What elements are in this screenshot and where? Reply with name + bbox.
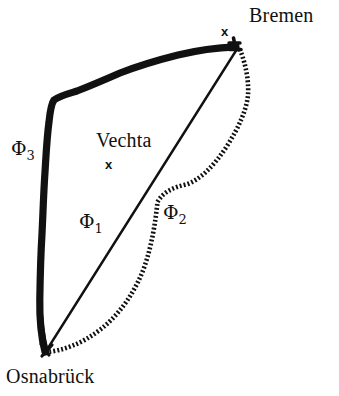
city-marker-vechta: x: [105, 158, 112, 171]
route-diagram-svg: [0, 0, 339, 396]
figure-canvas: Bremen x Osnabrück x Vechta x Φ1 Φ2 Φ3: [0, 0, 339, 396]
route-label-phi2-symbol: Φ: [163, 201, 179, 223]
city-label-osnabrueck: Osnabrück: [6, 366, 94, 386]
route-label-phi1-subscript: 1: [95, 221, 103, 236]
route-label-phi1-symbol: Φ: [79, 210, 95, 232]
route-label-phi2-subscript: 2: [179, 212, 187, 227]
route-label-phi3-subscript: 3: [27, 148, 35, 163]
route-label-phi1: Φ1: [79, 212, 103, 231]
route-label-phi2: Φ2: [163, 203, 187, 222]
city-marker-bremen: x: [221, 25, 228, 38]
route-phi3-path: [40, 47, 236, 352]
route-label-phi3: Φ3: [11, 139, 35, 158]
route-label-phi3-symbol: Φ: [11, 137, 27, 159]
city-label-bremen: Bremen: [249, 5, 314, 25]
bremen-junction-stem: [234, 38, 237, 50]
city-label-vechta: Vechta: [96, 130, 152, 150]
